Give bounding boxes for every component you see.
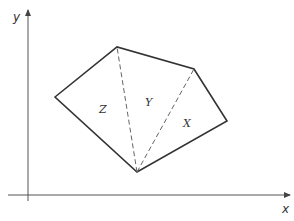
diagonal-bottom-to-top — [117, 47, 137, 172]
pentagon-outline — [55, 47, 227, 172]
diagram-canvas: y x Z Y X — [0, 0, 294, 221]
region-label-z: Z — [98, 103, 107, 116]
y-axis-label: y — [12, 10, 21, 24]
x-axis-label: x — [281, 202, 290, 216]
region-label-y: Y — [145, 96, 154, 109]
region-label-x: X — [182, 117, 192, 130]
